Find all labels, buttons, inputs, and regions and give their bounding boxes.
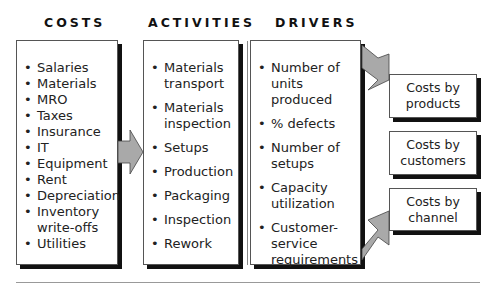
bottom-divider xyxy=(16,282,480,283)
arrow-drivers-to-products-icon xyxy=(362,45,389,90)
flow-arrows xyxy=(0,0,497,289)
arrow-drivers-to-channel-icon xyxy=(362,211,389,260)
arrow-costs-to-activities-icon xyxy=(118,130,143,174)
